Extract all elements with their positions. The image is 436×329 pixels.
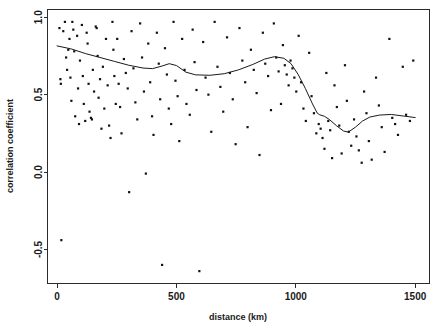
- data-point: [204, 77, 206, 79]
- data-point: [70, 100, 72, 102]
- data-point: [128, 191, 130, 193]
- data-point: [125, 72, 127, 74]
- data-point: [305, 120, 307, 122]
- data-point: [145, 172, 147, 174]
- data-point: [105, 38, 107, 40]
- data-point: [141, 56, 143, 58]
- data-point: [161, 264, 163, 266]
- data-point: [289, 59, 291, 61]
- data-point: [405, 114, 407, 116]
- data-point: [270, 109, 272, 111]
- data-point: [350, 145, 352, 147]
- data-point: [226, 36, 228, 38]
- data-point: [338, 125, 340, 127]
- data-point: [116, 38, 118, 40]
- data-point: [323, 148, 325, 150]
- data-point: [284, 64, 286, 66]
- data-point: [302, 107, 304, 109]
- data-point: [262, 32, 264, 34]
- x-tick-label: 1500: [404, 291, 427, 302]
- data-point: [108, 125, 110, 127]
- data-point: [402, 66, 404, 68]
- data-point: [91, 118, 93, 120]
- data-point: [113, 75, 115, 77]
- data-point: [170, 123, 172, 125]
- data-point: [214, 21, 216, 23]
- data-point: [123, 58, 125, 60]
- data-point: [130, 30, 132, 32]
- data-point: [66, 69, 68, 71]
- data-point: [327, 120, 329, 122]
- data-point: [69, 77, 71, 79]
- data-point: [60, 83, 62, 85]
- y-axis-title: correlation coefficient: [5, 99, 15, 193]
- data-point: [107, 84, 109, 86]
- data-point: [353, 118, 355, 120]
- data-point: [273, 22, 275, 24]
- data-point: [83, 103, 85, 105]
- data-point: [84, 120, 86, 122]
- figure-background: [0, 0, 436, 329]
- data-point: [102, 66, 104, 68]
- data-point: [151, 115, 153, 117]
- data-point: [282, 44, 284, 46]
- data-point: [336, 106, 338, 108]
- data-point: [81, 24, 83, 26]
- data-point: [72, 29, 74, 31]
- data-point: [195, 89, 197, 91]
- data-point: [139, 22, 141, 24]
- data-point: [96, 27, 98, 29]
- data-point: [388, 38, 390, 40]
- data-point: [112, 49, 114, 51]
- data-point: [82, 75, 84, 77]
- data-point: [293, 77, 295, 79]
- data-point: [88, 111, 90, 113]
- data-point: [250, 49, 252, 51]
- data-point: [210, 131, 212, 133]
- data-point: [185, 103, 187, 105]
- data-point: [222, 111, 224, 113]
- data-point: [198, 270, 200, 272]
- data-point: [219, 86, 221, 88]
- data-point: [253, 69, 255, 71]
- data-point: [363, 90, 365, 92]
- data-point: [313, 112, 315, 114]
- data-point: [79, 59, 81, 61]
- data-point: [358, 149, 360, 151]
- data-point: [172, 21, 174, 23]
- data-point: [216, 66, 218, 68]
- scatter-plot-figure: -0.50.00.51.0 050010001500 distance (km)…: [0, 0, 436, 329]
- data-point: [412, 59, 414, 61]
- data-point: [329, 129, 331, 131]
- data-point: [60, 239, 62, 241]
- data-point: [207, 94, 209, 96]
- data-point: [246, 126, 248, 128]
- data-point: [371, 159, 373, 161]
- data-point: [238, 27, 240, 29]
- data-point: [280, 103, 282, 105]
- data-point: [241, 59, 243, 61]
- data-point: [168, 107, 170, 109]
- data-point: [78, 123, 80, 125]
- data-point: [159, 98, 161, 100]
- data-point: [68, 38, 70, 40]
- data-point: [178, 140, 180, 142]
- data-point: [97, 97, 99, 99]
- data-point: [149, 81, 151, 83]
- data-point: [152, 134, 154, 136]
- data-point: [120, 132, 122, 134]
- data-point: [177, 95, 179, 97]
- data-point: [71, 21, 73, 23]
- data-point: [375, 77, 377, 79]
- data-point: [132, 67, 134, 69]
- data-point: [136, 118, 138, 120]
- y-tick-label: 1.0: [33, 10, 44, 24]
- data-point: [118, 83, 120, 85]
- x-tick-label: 500: [168, 291, 185, 302]
- data-point: [86, 32, 88, 34]
- data-point: [288, 84, 290, 86]
- data-point: [109, 137, 111, 139]
- data-point: [318, 123, 320, 125]
- data-point: [320, 128, 322, 130]
- data-point: [295, 90, 297, 92]
